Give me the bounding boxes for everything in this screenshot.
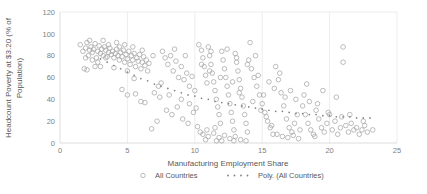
legend-marker-dotted-line-icon <box>227 175 229 177</box>
trendline-dot <box>228 103 230 105</box>
trendline-dot <box>356 117 358 119</box>
y-axis-tick-labels: 020406080100120 <box>42 8 55 148</box>
trendline-dot <box>275 110 277 112</box>
trendline-dot <box>187 94 189 96</box>
trendline-dot <box>268 109 270 111</box>
trendline-dot <box>234 104 236 106</box>
x-axis-title: Manufacturing Employment Share <box>168 159 290 168</box>
y-tick-label: 0 <box>51 139 55 148</box>
legend-label-all-countries: All Countries <box>155 171 198 180</box>
trendline-dot <box>342 116 344 118</box>
trendline-dot <box>315 114 317 116</box>
trendline-dot <box>127 71 129 73</box>
y-tick-label: 80 <box>47 51 55 60</box>
legend-marker-dotted-line-icon <box>247 175 249 177</box>
scatter-chart: 020406080100120 0510152025 Headcount Pov… <box>0 0 427 194</box>
trendline-dot <box>241 105 243 107</box>
legend-marker-dotted-line-icon <box>234 175 236 177</box>
trendline-dot <box>160 85 162 87</box>
chart-legend: All CountriesPoly. (All Countries) <box>141 171 324 180</box>
trendline-dot <box>113 65 115 67</box>
legend-marker-open-circle-icon <box>141 173 145 177</box>
y-tick-label: 20 <box>47 117 55 126</box>
trendline-dot <box>100 58 102 60</box>
y-tick-label: 100 <box>42 30 55 39</box>
svg-text:Population): Population) <box>15 57 24 98</box>
trendline-dot <box>201 97 203 99</box>
chart-canvas: 020406080100120 0510152025 Headcount Pov… <box>0 0 427 194</box>
y-tick-label: 60 <box>47 73 55 82</box>
trendline-dot <box>167 88 169 90</box>
trendline-dot <box>174 90 176 92</box>
trendline-dot <box>248 106 250 108</box>
trendline-dot <box>133 74 135 76</box>
trendline-dot <box>288 112 290 114</box>
trendline-dot <box>329 115 331 117</box>
y-tick-label: 40 <box>47 95 55 104</box>
trendline-dot <box>194 95 196 97</box>
trendline-dot <box>309 114 311 116</box>
trendline-dot <box>106 61 108 63</box>
trendline-dot <box>120 68 122 70</box>
trendline-dot <box>369 117 371 119</box>
trendline-dot <box>295 113 297 115</box>
x-tick-label: 20 <box>325 146 333 155</box>
trendline-dot <box>221 102 223 104</box>
trendline-dot <box>335 116 337 118</box>
trendline-dot <box>282 110 284 112</box>
x-tick-label: 0 <box>58 146 62 155</box>
svg-text:Headcount Poverty at $3.20 (%: Headcount Poverty at $3.20 (% of <box>4 17 13 138</box>
x-tick-label: 25 <box>393 146 401 155</box>
trendline-dot <box>147 80 149 82</box>
trendline-dot <box>180 92 182 94</box>
trendline-dot <box>349 116 351 118</box>
trendline-dot <box>214 101 216 103</box>
trendline-dot <box>154 83 156 85</box>
x-tick-label: 5 <box>125 146 129 155</box>
x-tick-label: 15 <box>258 146 266 155</box>
trendline-dot <box>322 115 324 117</box>
x-tick-label: 10 <box>191 146 199 155</box>
x-axis-tick-labels: 0510152025 <box>58 146 401 155</box>
legend-marker-dotted-line-icon <box>240 175 242 177</box>
y-tick-label: 120 <box>42 8 55 17</box>
trendline-dot <box>140 78 142 80</box>
trendline-dot <box>255 107 257 109</box>
trendline-dot <box>362 117 364 119</box>
trendline-dot <box>261 108 263 110</box>
trendline-dot <box>207 98 209 100</box>
trendline-dot <box>302 113 304 115</box>
legend-label-poly-all-countries: Poly. (All Countries) <box>258 171 324 180</box>
y-axis-title: Headcount Poverty at $3.20 (% of Populat… <box>4 17 24 138</box>
